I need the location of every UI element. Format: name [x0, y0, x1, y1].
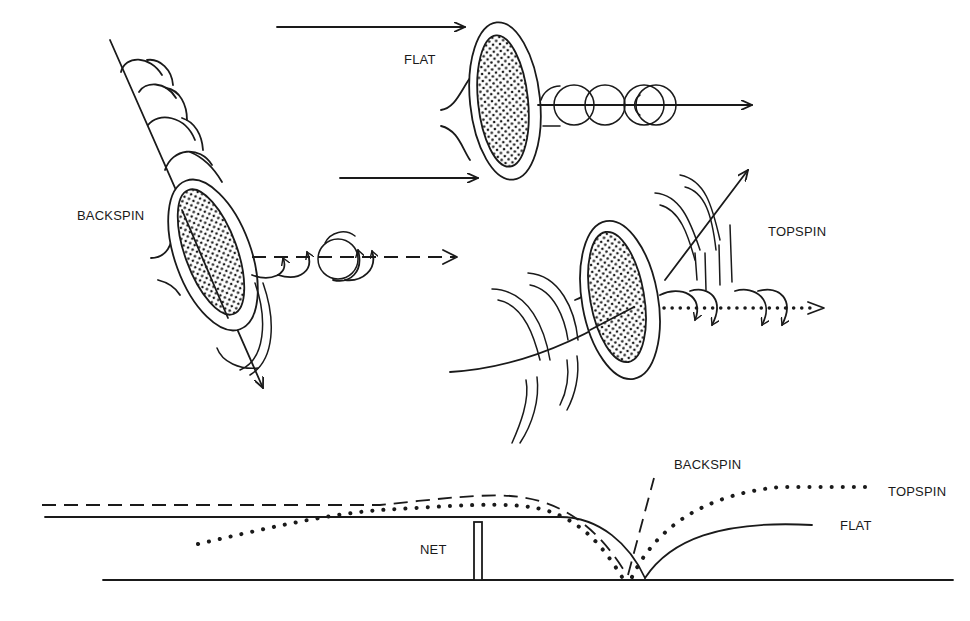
flat-panel: FLAT	[277, 19, 752, 183]
trajectory-diagram: NET BACKSPIN TOPSPIN FLAT	[42, 457, 953, 580]
spin-diagram: FLAT	[0, 0, 970, 621]
wake-curve	[217, 348, 258, 368]
net-post	[474, 522, 482, 580]
topspin-curve-label: TOPSPIN	[888, 484, 946, 499]
flat-curve-label: FLAT	[840, 518, 872, 533]
topspin-bounce-trajectory	[632, 487, 870, 577]
airflow-curve	[441, 78, 470, 110]
airflow-curve	[441, 126, 470, 160]
topspin-label: TOPSPIN	[768, 224, 826, 239]
backspin-bounce-trajectory	[628, 478, 654, 575]
net-label: NET	[420, 542, 447, 557]
backspin-panel: BACKSPIN	[77, 40, 457, 388]
backspin-curve-label: BACKSPIN	[674, 457, 741, 472]
airflow-curve	[158, 280, 180, 295]
swing-trail-arcs	[121, 60, 222, 182]
airflow-arcs	[655, 175, 732, 290]
flat-bounce-trajectory	[645, 524, 812, 578]
airflow-arcs	[492, 273, 578, 443]
topspin-panel: TOPSPIN	[450, 170, 826, 443]
topspin-trajectory	[198, 505, 622, 577]
flat-trajectory	[45, 517, 645, 578]
backspin-rotation-icon	[252, 232, 373, 281]
backspin-label: BACKSPIN	[77, 208, 144, 223]
flat-label: FLAT	[404, 52, 436, 67]
swing-path-arrow-icon	[665, 170, 748, 280]
